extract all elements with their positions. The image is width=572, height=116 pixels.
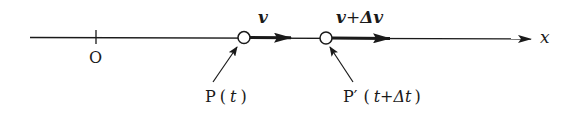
point-p-time: t: [230, 87, 236, 106]
velocity-label-dv-part: Δv: [360, 7, 383, 27]
plus-sign: +: [346, 7, 360, 27]
point-p-marker: [238, 32, 250, 44]
point-p-prime-dt: Δt: [394, 87, 412, 106]
paren-close: ): [240, 87, 246, 106]
point-p-label: P(t): [205, 89, 247, 105]
axis-label-x: x: [540, 29, 550, 46]
point-p-prime-label: P′(t+Δt): [343, 89, 421, 105]
point-p-prime-name: P′: [343, 87, 357, 106]
paren-open: (: [220, 87, 226, 106]
paren-close: ): [414, 87, 420, 106]
diagram-graphics: [0, 0, 572, 116]
pointer-arrow-p: [213, 47, 237, 82]
pointer-arrow-p-prime: [330, 47, 353, 82]
point-p-name: P: [205, 87, 216, 106]
origin-label: O: [89, 50, 102, 66]
paren-open: (: [363, 87, 369, 106]
point-p-prime-marker: [320, 32, 332, 44]
plus-sign: +: [380, 87, 393, 106]
motion-diagram: O v v+Δv x P(t) P′(t+Δt): [0, 0, 572, 116]
velocity-label-v-plus-dv: v+Δv: [336, 9, 383, 26]
velocity-label-v: v: [258, 9, 268, 26]
velocity-label-v-part: v: [336, 7, 346, 27]
